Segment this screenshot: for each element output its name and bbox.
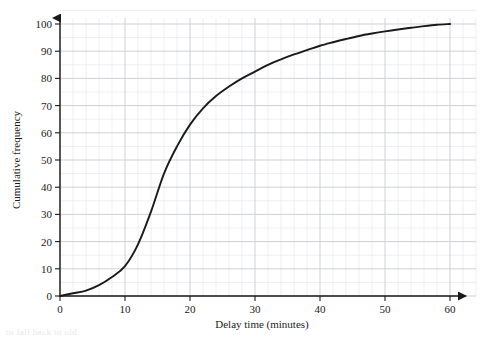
- y-tick-label: 0: [47, 290, 53, 302]
- x-tick-label: 60: [445, 303, 457, 315]
- y-tick-label: 80: [41, 72, 53, 84]
- cumulative-frequency-chart: 0102030405060708090100 0102030405060 Del…: [0, 0, 484, 344]
- y-tick-label: 30: [41, 208, 53, 220]
- x-tick-label: 20: [185, 303, 197, 315]
- x-axis-title: Delay time (minutes): [215, 318, 309, 331]
- y-tick-label: 10: [41, 263, 53, 275]
- x-tick-label: 40: [315, 303, 327, 315]
- y-tick-label: 20: [41, 236, 53, 248]
- y-tick-label: 60: [41, 127, 53, 139]
- y-tick-label: 70: [41, 100, 53, 112]
- y-tick-label: 40: [41, 181, 53, 193]
- y-tick-label: 90: [41, 45, 53, 57]
- chart-canvas: 0102030405060708090100 0102030405060 Del…: [0, 0, 484, 344]
- x-tick-label: 0: [57, 303, 63, 315]
- y-tick-label: 50: [41, 154, 53, 166]
- y-tick-label: 100: [36, 18, 53, 30]
- x-tick-label: 10: [120, 303, 132, 315]
- y-axis-title: Cumulative frequency: [10, 110, 22, 209]
- footer-text-fragment: to fall back to old: [6, 327, 77, 337]
- x-tick-label: 50: [380, 303, 392, 315]
- x-tick-label: 30: [250, 303, 262, 315]
